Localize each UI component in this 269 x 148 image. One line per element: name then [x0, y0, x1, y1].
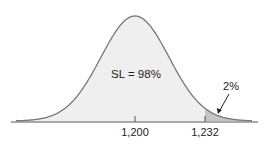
tick-label-mean: 1,200: [121, 126, 149, 138]
tail-arrow: [220, 94, 230, 111]
tail-probability-label: 2%: [223, 80, 239, 92]
service-level-label: SL = 98%: [111, 68, 161, 80]
normal-distribution-chart: 1,200 1,232 SL = 98% 2%: [0, 0, 269, 148]
tick-label-cutoff: 1,232: [191, 126, 219, 138]
